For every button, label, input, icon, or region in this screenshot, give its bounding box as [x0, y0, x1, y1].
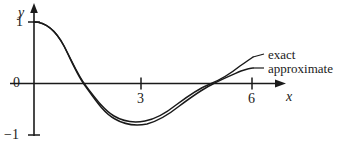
figure-canvas: y x 1 0 −1 3 6 exact approximate [0, 0, 346, 153]
y-tick-label-neg-1: −1 [4, 128, 19, 142]
x-axis [10, 79, 286, 87]
y-tick-label-0: 0 [13, 76, 20, 90]
plot-area [0, 0, 346, 153]
legend-label-exact: exact [268, 48, 295, 61]
legend-leader-exact [253, 54, 264, 57]
legend-label-approximate: approximate [268, 62, 333, 75]
y-axis [30, 3, 38, 136]
x-tick-label-6: 6 [248, 92, 255, 106]
x-tick-label-3: 3 [137, 92, 144, 106]
tick-marks [28, 22, 252, 135]
curve-approximate [34, 22, 253, 125]
curve-exact [34, 22, 253, 122]
y-tick-label-1: 1 [16, 15, 23, 29]
x-axis-label: x [286, 90, 292, 104]
